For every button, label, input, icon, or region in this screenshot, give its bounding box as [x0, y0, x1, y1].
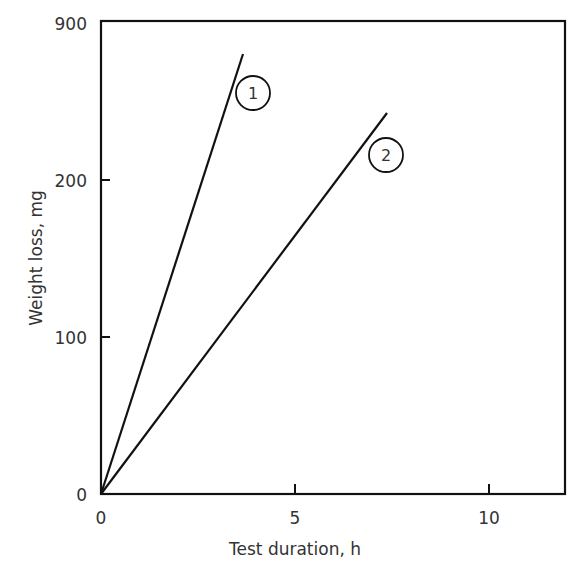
chart: 900 200 100 0 0 5 10 Test duration, h We…	[0, 0, 588, 570]
y-tick-label-100: 100	[55, 328, 87, 348]
series-2-label: 2	[381, 146, 391, 165]
y-tick-label-0: 0	[76, 485, 87, 505]
x-axis-title: Test duration, h	[228, 539, 361, 559]
y-tick-label-200: 200	[55, 171, 87, 191]
series-2-line	[101, 113, 387, 494]
x-tick-label-0: 0	[96, 508, 107, 528]
series-1-label: 1	[248, 84, 258, 103]
plot-frame	[101, 21, 565, 494]
x-tick-label-10: 10	[478, 508, 500, 528]
x-tick-label-5: 5	[290, 508, 301, 528]
y-tick-label-900: 900	[55, 14, 87, 34]
y-axis-title: Weight loss, mg	[26, 190, 46, 326]
series-1-line	[101, 54, 243, 494]
